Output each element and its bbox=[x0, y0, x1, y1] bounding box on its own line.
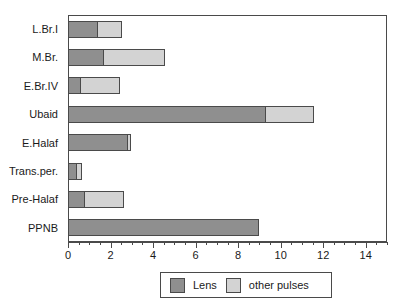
x-tick-minor bbox=[100, 242, 101, 245]
stacked-bar bbox=[68, 77, 120, 94]
bar-segment-other-pulses bbox=[265, 106, 314, 123]
x-tick-minor bbox=[387, 242, 388, 245]
x-tick-label: 10 bbox=[266, 249, 296, 261]
bar-row bbox=[68, 129, 131, 157]
bar-row bbox=[68, 157, 82, 185]
x-tick-minor bbox=[344, 242, 345, 245]
x-tick-minor bbox=[376, 242, 377, 245]
bar-row bbox=[68, 72, 120, 100]
bar-row bbox=[68, 15, 122, 43]
bar-segment-other-pulses bbox=[103, 49, 165, 66]
legend-swatch-lens bbox=[170, 278, 185, 293]
x-tick-label: 14 bbox=[351, 249, 381, 261]
y-axis-label: E.Br.IV bbox=[24, 72, 58, 100]
bar-row bbox=[68, 100, 314, 128]
x-tick-major bbox=[68, 242, 69, 248]
bar-segment-other-pulses bbox=[97, 21, 123, 38]
bar-row bbox=[68, 43, 165, 71]
y-axis-label: M.Br. bbox=[32, 43, 58, 71]
stacked-bar bbox=[68, 163, 82, 180]
x-tick-label: 4 bbox=[138, 249, 168, 261]
bar-segment-lens bbox=[68, 21, 98, 38]
x-tick-minor bbox=[142, 242, 143, 245]
y-axis-label: Pre-Halaf bbox=[12, 185, 58, 213]
stacked-bar bbox=[68, 134, 131, 151]
x-tick-major bbox=[196, 242, 197, 248]
y-axis-category-labels: L.Br.IM.Br.E.Br.IVUbaidE.HalafTrans.per.… bbox=[0, 15, 64, 242]
bar-row bbox=[68, 185, 124, 213]
bar-segment-other-pulses bbox=[76, 163, 82, 180]
x-tick-minor bbox=[334, 242, 335, 245]
y-axis-label: PPNB bbox=[28, 214, 58, 242]
x-tick-major bbox=[153, 242, 154, 248]
bar-rows-container bbox=[68, 15, 387, 242]
y-axis-label: E.Halaf bbox=[22, 129, 58, 157]
x-tick-minor bbox=[174, 242, 175, 245]
bar-segment-other-pulses bbox=[84, 191, 124, 208]
x-tick-label: 2 bbox=[96, 249, 126, 261]
x-tick-major bbox=[111, 242, 112, 248]
bar-segment-lens bbox=[68, 134, 128, 151]
bar-segment-other-pulses bbox=[80, 77, 120, 94]
legend-item-lens: Lens bbox=[170, 278, 217, 293]
x-tick-label: 0 bbox=[53, 249, 83, 261]
bar-segment-other-pulses bbox=[127, 134, 131, 151]
chart-legend: Lens other pulses bbox=[160, 272, 332, 298]
stacked-bar bbox=[68, 49, 165, 66]
stacked-bar bbox=[68, 21, 122, 38]
legend-item-other-pulses: other pulses bbox=[226, 278, 309, 293]
x-tick-major bbox=[323, 242, 324, 248]
x-tick-label: 8 bbox=[223, 249, 253, 261]
x-tick-label: 6 bbox=[181, 249, 211, 261]
x-tick-major bbox=[281, 242, 282, 248]
legend-label-other-pulses: other pulses bbox=[249, 279, 309, 291]
x-tick-major bbox=[238, 242, 239, 248]
x-tick-minor bbox=[355, 242, 356, 245]
x-tick-minor bbox=[89, 242, 90, 245]
bar-segment-lens bbox=[68, 191, 85, 208]
x-tick-minor bbox=[121, 242, 122, 245]
y-axis-label: Trans.per. bbox=[9, 157, 58, 185]
x-tick-minor bbox=[313, 242, 314, 245]
x-tick-minor bbox=[217, 242, 218, 245]
bar-row bbox=[68, 214, 259, 242]
x-tick-minor bbox=[259, 242, 260, 245]
x-tick-minor bbox=[302, 242, 303, 245]
x-tick-minor bbox=[185, 242, 186, 245]
bar-segment-lens bbox=[68, 219, 259, 236]
x-tick-minor bbox=[270, 242, 271, 245]
x-tick-major bbox=[366, 242, 367, 248]
x-tick-minor bbox=[291, 242, 292, 245]
stacked-bar bbox=[68, 219, 259, 236]
x-tick-label: 12 bbox=[308, 249, 338, 261]
stacked-bar bbox=[68, 191, 124, 208]
x-tick-minor bbox=[228, 242, 229, 245]
bar-segment-lens bbox=[68, 49, 104, 66]
legend-label-lens: Lens bbox=[193, 279, 217, 291]
stacked-bar bbox=[68, 106, 314, 123]
bar-segment-lens bbox=[68, 106, 266, 123]
x-tick-minor bbox=[164, 242, 165, 245]
stacked-bar-chart: L.Br.IM.Br.E.Br.IVUbaidE.HalafTrans.per.… bbox=[0, 0, 407, 308]
y-axis-label: L.Br.I bbox=[32, 15, 58, 43]
x-tick-minor bbox=[249, 242, 250, 245]
x-tick-minor bbox=[206, 242, 207, 245]
legend-swatch-other-pulses bbox=[226, 278, 241, 293]
y-axis-label: Ubaid bbox=[29, 100, 58, 128]
x-tick-minor bbox=[79, 242, 80, 245]
x-tick-minor bbox=[132, 242, 133, 245]
